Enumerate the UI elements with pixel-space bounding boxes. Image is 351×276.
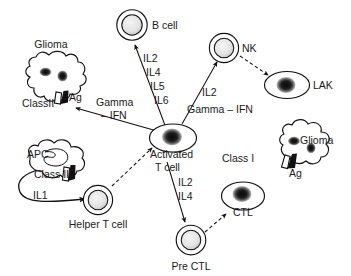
label-il6-b-cell: IL6	[154, 94, 169, 106]
label-class2-left: ClassII	[22, 97, 54, 109]
label-gamma-ifn-right: Gamma – IFN	[187, 103, 253, 115]
label-activated-t-line2: T cell	[155, 161, 180, 173]
label-gamma-ifn-left-line2: – IFN	[101, 109, 127, 121]
label-activated-t-line1: Activated	[150, 148, 193, 160]
glioma-left-nucleus-b	[57, 70, 67, 81]
cell-lak	[265, 72, 310, 99]
arrow-nk-to-lak	[240, 56, 268, 75]
label-nk: NK	[242, 42, 257, 54]
arrow-pre-ctl-to-ctl	[205, 214, 226, 232]
label-pre-ctl: Pre CTL	[171, 260, 210, 272]
diagram-canvas: Glioma ClassII Ag B cell IL2 IL4 IL5 IL6…	[0, 0, 351, 276]
cell-helper-t	[83, 185, 112, 214]
label-lak: LAK	[313, 79, 333, 91]
label-class2-apc: Class II	[34, 168, 69, 180]
activated-t-nucleus	[162, 129, 182, 146]
pathway-diagram-svg: Glioma ClassII Ag B cell IL2 IL4 IL5 IL6…	[0, 0, 351, 276]
ctl-nucleus	[233, 186, 252, 202]
cell-pre-ctl	[176, 225, 206, 255]
label-glioma-left: Glioma	[34, 38, 67, 50]
label-il2-pre-ctl: IL2	[178, 176, 193, 188]
label-il4-b-cell: IL4	[146, 66, 161, 78]
classII-left-marker	[55, 92, 62, 104]
label-il4-pre-ctl: IL4	[178, 190, 193, 202]
cell-nk	[209, 33, 238, 62]
b-cell-nucleus	[122, 15, 142, 35]
cell-b-cell	[117, 10, 147, 40]
lak-nucleus	[277, 77, 296, 93]
glioma-right-nucleus-a	[288, 137, 300, 146]
label-helper-t: Helper T cell	[69, 218, 128, 230]
pre-ctl-nucleus	[181, 230, 201, 250]
label-apc: APC	[27, 148, 49, 160]
label-ctl: CTL	[233, 206, 253, 218]
label-b-cell: B cell	[152, 19, 178, 31]
label-gamma-ifn-left-line1: Gamma	[96, 96, 134, 108]
label-glioma-right: Glioma	[300, 134, 333, 146]
label-il1: IL1	[33, 189, 48, 201]
label-ag-right: Ag	[289, 167, 302, 179]
label-il5-b-cell: IL5	[150, 80, 165, 92]
arrow-helper-t-to-activated-t	[112, 148, 152, 186]
label-ag-left: Ag	[69, 91, 82, 103]
helper-t-nucleus	[88, 190, 108, 210]
nk-nucleus	[214, 38, 234, 58]
label-il2-b-cell: IL2	[143, 52, 158, 64]
glioma-left-nucleus-a	[40, 68, 52, 77]
label-class1-right: Class I	[222, 152, 254, 164]
label-il2-nk: IL2	[202, 86, 217, 98]
